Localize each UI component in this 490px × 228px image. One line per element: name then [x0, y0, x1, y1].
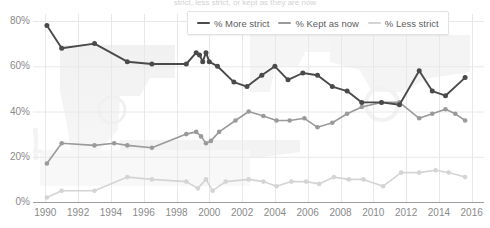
- gun-law-opinion-line-chart: strict, less strict, or kept as they are…: [0, 0, 490, 228]
- data-point-marker: [379, 100, 384, 105]
- data-point-marker: [231, 80, 236, 85]
- data-point-marker: [332, 175, 337, 180]
- data-point-marker: [289, 179, 294, 184]
- svg-text:4: 4: [18, 118, 44, 170]
- data-point-marker: [125, 59, 130, 64]
- data-point-marker: [417, 116, 422, 121]
- data-point-marker: [361, 177, 366, 182]
- data-point-marker: [184, 62, 189, 67]
- legend-line-swatch-icon: [368, 22, 381, 24]
- data-point-marker: [215, 64, 220, 69]
- data-point-marker: [209, 139, 214, 144]
- data-point-marker: [59, 141, 64, 146]
- data-point-marker: [397, 102, 402, 107]
- data-point-marker: [359, 100, 364, 105]
- data-point-marker: [204, 50, 209, 55]
- legend-line-swatch-icon: [278, 22, 291, 24]
- data-point-marker: [196, 186, 201, 191]
- data-point-marker: [399, 170, 404, 175]
- data-point-marker: [223, 179, 228, 184]
- legend-item-label: % Less strict: [385, 18, 439, 29]
- data-point-marker: [433, 168, 438, 173]
- data-point-marker: [246, 109, 251, 114]
- data-point-marker: [199, 134, 204, 139]
- data-point-marker: [204, 177, 209, 182]
- data-point-marker: [274, 118, 279, 123]
- data-point-marker: [345, 112, 350, 117]
- data-point-marker: [443, 93, 448, 98]
- data-point-marker: [446, 170, 451, 175]
- legend-item-label: % More strict: [214, 18, 269, 29]
- legend-item[interactable]: % Kept as now: [278, 18, 358, 29]
- data-point-marker: [125, 175, 130, 180]
- data-point-marker: [315, 125, 320, 130]
- data-point-marker: [417, 68, 422, 73]
- data-point-marker: [346, 177, 351, 182]
- data-point-marker: [92, 143, 97, 148]
- data-point-marker: [197, 52, 202, 57]
- data-point-marker: [59, 188, 64, 193]
- data-point-marker: [150, 177, 155, 182]
- data-point-marker: [184, 179, 189, 184]
- y-axis-tick-label: 80%: [0, 15, 30, 26]
- data-point-marker: [453, 112, 458, 117]
- x-axis-tick-label: 2016: [452, 207, 490, 218]
- data-point-marker: [59, 46, 64, 51]
- data-point-marker: [92, 188, 97, 193]
- y-axis-tick-label: 0%: [0, 196, 30, 207]
- data-point-marker: [112, 141, 117, 146]
- data-point-marker: [45, 195, 50, 200]
- legend-item-label: % Kept as now: [295, 18, 358, 29]
- data-point-marker: [233, 118, 238, 123]
- data-point-marker: [149, 62, 154, 67]
- data-point-marker: [204, 141, 209, 146]
- data-point-marker: [44, 23, 49, 28]
- data-point-marker: [463, 175, 468, 180]
- y-axis-tick-label: 40%: [0, 106, 30, 117]
- data-point-marker: [45, 161, 50, 166]
- data-point-marker: [430, 112, 435, 117]
- data-point-marker: [245, 84, 250, 89]
- data-point-marker: [330, 84, 335, 89]
- data-point-marker: [261, 114, 266, 119]
- data-point-marker: [381, 184, 386, 189]
- data-point-marker: [125, 143, 130, 148]
- data-point-marker: [345, 89, 350, 94]
- data-point-marker: [207, 59, 212, 64]
- data-point-marker: [217, 130, 222, 135]
- data-point-marker: [360, 105, 365, 110]
- data-point-marker: [443, 107, 448, 112]
- legend-item[interactable]: % Less strict: [368, 18, 439, 29]
- data-point-marker: [330, 121, 335, 126]
- chart-legend: % More strict% Kept as now% Less strict: [187, 11, 449, 35]
- data-point-marker: [417, 170, 422, 175]
- data-point-marker: [463, 75, 468, 80]
- data-point-marker: [302, 116, 307, 121]
- data-point-marker: [463, 118, 468, 123]
- y-axis-tick-label: 60%: [0, 60, 30, 71]
- data-point-marker: [200, 59, 205, 64]
- data-point-marker: [287, 118, 292, 123]
- data-point-marker: [317, 182, 322, 187]
- data-point-marker: [300, 71, 305, 76]
- data-point-marker: [150, 145, 155, 150]
- data-point-marker: [304, 179, 309, 184]
- data-point-marker: [259, 73, 264, 78]
- y-axis-tick-label: 20%: [0, 151, 30, 162]
- data-point-marker: [246, 177, 251, 182]
- data-point-marker: [272, 64, 277, 69]
- legend-item[interactable]: % More strict: [197, 18, 269, 29]
- data-point-marker: [184, 132, 189, 137]
- data-point-marker: [194, 130, 199, 135]
- data-point-marker: [315, 73, 320, 78]
- data-point-marker: [286, 77, 291, 82]
- data-point-marker: [430, 89, 435, 94]
- legend-line-swatch-icon: [197, 22, 210, 24]
- data-point-marker: [210, 188, 215, 193]
- data-point-marker: [92, 41, 97, 46]
- data-point-marker: [261, 179, 266, 184]
- data-point-marker: [274, 184, 279, 189]
